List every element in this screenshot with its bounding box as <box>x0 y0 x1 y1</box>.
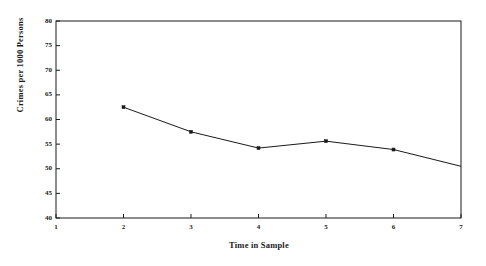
data-point-marker <box>325 140 328 143</box>
data-series-line <box>124 107 462 166</box>
axes-frame <box>56 21 461 218</box>
data-point-marker <box>392 148 395 151</box>
y-axis-ticks <box>56 21 60 218</box>
data-point-marker <box>190 130 193 133</box>
x-axis-tick-label: 4 <box>249 224 269 231</box>
x-axis-title: Time in Sample <box>56 240 462 250</box>
x-axis-tick-label: 3 <box>181 224 201 231</box>
x-axis-tick-labels: 1234567 <box>0 224 486 238</box>
x-axis-tick-label: 1 <box>46 224 66 231</box>
x-axis-tick-label: 2 <box>114 224 134 231</box>
x-axis-tick-label: 7 <box>451 224 471 231</box>
x-axis-tick-label: 5 <box>316 224 336 231</box>
chart-figure: Crimes per 1000 Persons 4045505560657075… <box>0 0 486 266</box>
axes-box <box>56 21 461 218</box>
x-axis-ticks <box>56 214 461 218</box>
series-line <box>124 107 462 166</box>
data-point-marker <box>257 147 260 150</box>
x-axis-tick-label: 6 <box>384 224 404 231</box>
data-point-marker <box>122 106 125 109</box>
